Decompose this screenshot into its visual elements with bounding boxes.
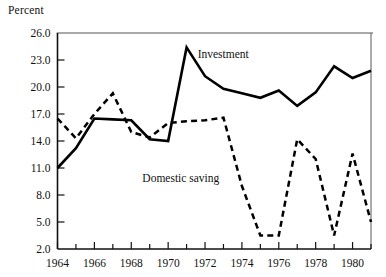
annotation-label: Domestic saving <box>142 172 219 185</box>
x-tick-label: 1978 <box>304 257 327 269</box>
data-series-group <box>58 47 372 235</box>
x-tick-label: 1964 <box>46 257 69 269</box>
x-tick-label: 1970 <box>157 257 180 269</box>
series-line-investment <box>58 47 372 168</box>
chart-container: Percent 26.023.020.017.014.011.08.05.02.… <box>0 0 386 277</box>
x-tick-label: 1972 <box>194 257 217 269</box>
y-tick-label: 23.0 <box>30 54 50 66</box>
y-tick-label: 2.0 <box>36 243 51 255</box>
y-tick-label: 26.0 <box>30 27 50 39</box>
x-tick-label: 1976 <box>267 257 290 269</box>
series-line-domestic-saving <box>58 93 372 235</box>
y-tick-label: 20.0 <box>30 81 50 93</box>
y-axis-ticks <box>58 60 65 222</box>
series-annotations: InvestmentDomestic saving <box>142 48 249 185</box>
line-chart-plot: 26.023.020.017.014.011.08.05.02.0 196419… <box>0 0 386 277</box>
x-tick-label: 1974 <box>230 257 253 269</box>
x-tick-label: 1966 <box>83 257 106 269</box>
x-tick-label: 1980 <box>341 257 364 269</box>
y-tick-label: 11.0 <box>31 162 51 174</box>
plot-axes <box>58 33 372 249</box>
y-tick-label: 5.0 <box>36 216 51 228</box>
x-axis-tick-labels: 196419661968197019721974197619781980 <box>46 257 364 269</box>
x-tick-label: 1968 <box>120 257 143 269</box>
y-tick-label: 17.0 <box>30 108 50 120</box>
y-tick-label: 14.0 <box>30 135 50 147</box>
annotation-label: Investment <box>198 48 250 60</box>
y-tick-label: 8.0 <box>36 189 51 201</box>
y-axis-tick-labels: 26.023.020.017.014.011.08.05.02.0 <box>30 27 50 255</box>
x-axis-ticks <box>58 242 372 249</box>
